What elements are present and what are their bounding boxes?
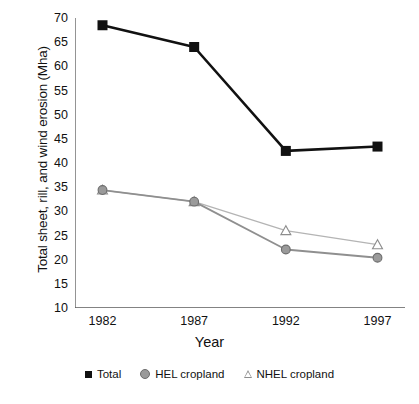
y-tick-label: 25 [42,230,68,242]
x-tick-label: 1997 [355,314,401,328]
x-tick-label: 1982 [80,314,126,328]
legend-label: HEL cropland [155,368,224,380]
y-tick-label: 30 [42,205,68,217]
y-tick-label: 40 [42,157,68,169]
plot-svg [75,18,405,308]
x-axis-tick-labels: 1982198719921997 [75,310,405,330]
marker-circle [373,253,382,262]
legend-label: NHEL cropland [257,368,335,380]
y-tick-label: 45 [42,133,68,145]
x-axis-title: Year [0,334,419,350]
legend-label: Total [97,368,121,380]
y-tick-label: 20 [42,254,68,266]
legend-item-0: Total [85,368,121,380]
square-marker-icon [85,371,92,378]
x-tick-label: 1987 [171,314,217,328]
marker-circle [190,197,199,206]
y-tick-label: 70 [42,12,68,24]
marker-square [189,42,199,52]
x-tick-label: 1992 [263,314,309,328]
legend-item-1: HEL cropland [140,368,224,380]
y-tick-label: 55 [42,85,68,97]
erosion-line-chart: Total sheet, rill, and wind erosion (Mha… [0,0,419,404]
y-tick-label: 35 [42,181,68,193]
y-tick-label: 15 [42,278,68,290]
circle-marker-icon [140,369,150,379]
marker-circle [281,245,290,254]
triangle-marker-icon [244,370,252,378]
marker-square [373,142,383,152]
series-line-1 [103,190,378,258]
y-tick-label: 60 [42,60,68,72]
plot-area [75,18,405,308]
series-line-0 [103,25,378,151]
marker-square [98,20,108,30]
marker-circle [98,186,107,195]
y-tick-label: 65 [42,36,68,48]
y-tick-label: 10 [42,302,68,314]
y-tick-label: 50 [42,109,68,121]
series-line-2 [103,190,378,245]
chart-legend: TotalHEL croplandNHEL cropland [0,368,419,380]
legend-item-2: NHEL cropland [244,368,335,380]
marker-square [281,146,291,156]
y-axis-tick-labels: 10152025303540455055606570 [40,18,68,308]
